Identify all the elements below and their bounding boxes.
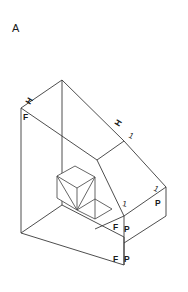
figure-label-left-top-f: F [23,112,28,122]
isometric-drawing: AHFH11P1FPFP [0,0,188,292]
figure-label-right-top-h: H [112,118,124,129]
solid-faces [21,80,166,265]
figure-label-right-top-tick: 1 [127,131,136,141]
figure-label-center-p: P [124,224,130,234]
figure-label-right-mid-p: P [155,198,161,208]
figure-label-bottom-f: F [113,254,118,264]
figure-label-caption-a: A [12,22,20,34]
figure-container: AHFH11P1FPFP [0,0,188,292]
figure-label-bottom-p: P [124,254,130,264]
figure-label-center-f: F [113,222,118,232]
